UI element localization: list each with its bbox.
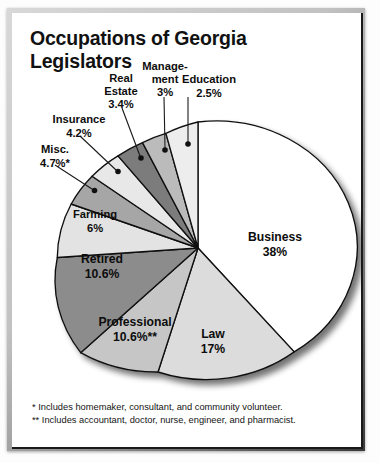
slice-label-professional-name: Professional xyxy=(98,315,171,329)
slice-label-education-pct: 2.5% xyxy=(196,87,222,99)
leader-dot-education xyxy=(185,141,191,147)
slice-label-professional-pct: 10.6%** xyxy=(113,330,157,344)
slice-label-business-pct: 38% xyxy=(263,245,288,259)
footnote-single-asterisk: * Includes homemaker, consultant, and co… xyxy=(32,401,348,414)
slice-label-retired-name: Retired xyxy=(81,252,123,266)
leader-dot-real-estate xyxy=(138,155,144,161)
figure-root: Occupations of Georgia Legislators xyxy=(0,0,380,463)
leader-line-insurance xyxy=(80,136,116,170)
slice-label-real-estate-name1: Real xyxy=(109,72,133,84)
slice-label-retired-pct: 10.6% xyxy=(85,267,120,281)
chart-card: Occupations of Georgia Legislators xyxy=(12,13,361,447)
slice-label-business-name: Business xyxy=(248,230,302,244)
slice-label-misc-pct: 4.7%* xyxy=(40,157,70,169)
leader-dot-misc xyxy=(92,188,98,194)
leader-dot-insurance xyxy=(115,169,121,175)
slice-label-management-name1: Manage- xyxy=(142,60,188,72)
slice-label-insurance-pct: 4.2% xyxy=(66,127,92,139)
pie-chart: Business 38% Law 17% Professional 10.6%*… xyxy=(12,13,361,447)
slice-label-farming-pct: 6% xyxy=(87,222,103,234)
slice-label-education-name: Education xyxy=(182,73,236,85)
leader-dot-management xyxy=(162,147,168,153)
slice-label-real-estate-name2: Estate xyxy=(104,85,138,97)
slice-label-farming-name: Farming xyxy=(73,208,117,220)
slice-label-management-pct: 3% xyxy=(157,86,173,98)
slice-label-real-estate-pct: 3.4% xyxy=(108,98,134,110)
slice-label-misc-name: Misc. xyxy=(41,143,69,155)
footnote-double-asterisk: ** Includes accountant, doctor, nurse, e… xyxy=(32,414,348,427)
slice-label-management-name2: ment xyxy=(152,73,179,85)
footnotes: * Includes homemaker, consultant, and co… xyxy=(32,401,348,427)
slice-label-law-pct: 17% xyxy=(201,342,226,356)
slice-label-law-name: Law xyxy=(201,327,225,341)
slice-label-insurance-name: Insurance xyxy=(53,113,106,125)
